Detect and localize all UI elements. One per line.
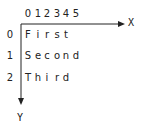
row-char: T (24, 73, 32, 83)
y-axis-arrow-icon (18, 98, 24, 105)
row-char: i (43, 73, 51, 83)
row-char: r (43, 30, 51, 40)
string-grid-diagram: X Y 0 1 2 3 4 5 0 F i r s t 1 S e c o n … (0, 0, 143, 126)
y-axis-label: Y (17, 113, 23, 123)
row-char: d (62, 73, 70, 83)
row-char: e (34, 51, 42, 61)
row-index: 1 (6, 51, 14, 61)
column-index: 4 (62, 9, 70, 19)
row-char: s (53, 30, 61, 40)
row-index: 2 (6, 73, 14, 83)
row-char: i (34, 30, 42, 40)
x-axis-arrow-icon (118, 21, 125, 27)
x-axis-label: X (128, 18, 134, 28)
column-index: 1 (34, 9, 42, 19)
column-index: 0 (24, 9, 32, 19)
column-index: 5 (72, 9, 80, 19)
row-char: F (24, 30, 32, 40)
row-char: o (53, 51, 61, 61)
column-index: 3 (53, 9, 61, 19)
row-char: n (62, 51, 70, 61)
row-char: t (62, 30, 70, 40)
row-char: c (43, 51, 51, 61)
row-char: h (34, 73, 42, 83)
row-index: 0 (6, 30, 14, 40)
row-char: S (24, 51, 32, 61)
column-index: 2 (43, 9, 51, 19)
row-char: d (72, 51, 80, 61)
row-char: r (53, 73, 61, 83)
